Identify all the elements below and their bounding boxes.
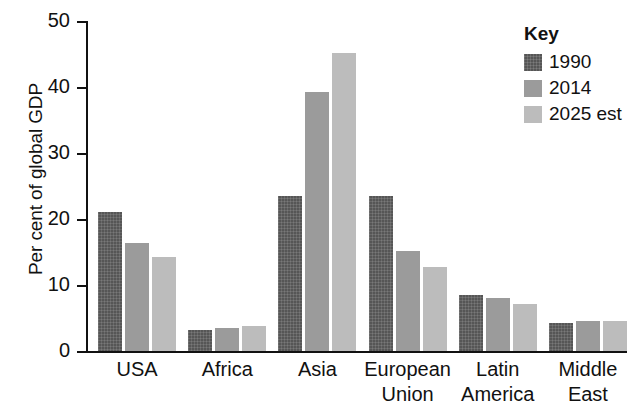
bar: [215, 328, 239, 351]
bar: [278, 196, 302, 351]
y-tick-label-50: 50: [48, 8, 70, 32]
bar: [332, 53, 356, 351]
legend-swatch-icon: [524, 106, 542, 123]
x-axis-label-line: Middle: [528, 357, 638, 382]
legend-title: Key: [524, 22, 634, 46]
bar: [369, 196, 393, 351]
bar: [125, 243, 149, 351]
bar: [549, 323, 573, 351]
legend-label: 1990: [549, 51, 591, 73]
bar-group: [98, 21, 176, 351]
bar: [576, 321, 600, 351]
bar: [98, 212, 122, 351]
bar-group: [369, 21, 447, 351]
x-axis-label-line: East: [528, 382, 638, 407]
legend-swatch-icon: [524, 80, 542, 97]
x-axis-category-labels: USAAfricaAsiaEuropeanUnionLatinAmericaMi…: [86, 357, 627, 417]
y-tick-0: 0: [77, 351, 87, 353]
y-tick-label-10: 10: [48, 272, 70, 296]
bar: [152, 257, 176, 351]
bar: [603, 321, 627, 351]
legend-item: 2025 est: [524, 101, 634, 127]
bar: [242, 326, 266, 351]
legend-item: 1990: [524, 49, 634, 75]
bar: [305, 92, 329, 351]
legend-label: 2014: [549, 77, 591, 99]
y-tick-label-0: 0: [59, 338, 70, 362]
legend-item: 2014: [524, 75, 634, 101]
bar: [188, 330, 212, 351]
bar: [486, 298, 510, 351]
bar-group: [188, 21, 266, 351]
bar-group: [278, 21, 356, 351]
bar: [513, 304, 537, 351]
x-axis-line: [86, 351, 627, 353]
bar: [459, 295, 483, 351]
y-tick-label-30: 30: [48, 140, 70, 164]
bar-chart: Per cent of global GDP 01020304050 USAAf…: [0, 0, 638, 419]
legend-entries: 199020142025 est: [524, 49, 634, 127]
x-axis-label: MiddleEast: [528, 357, 638, 407]
y-axis-title: Per cent of global GDP: [25, 49, 47, 309]
legend: Key 199020142025 est: [524, 22, 634, 127]
bar: [423, 267, 447, 351]
y-tick-label-20: 20: [48, 206, 70, 230]
legend-swatch-icon: [524, 54, 542, 71]
bar: [396, 251, 420, 351]
y-tick-label-40: 40: [48, 74, 70, 98]
legend-label: 2025 est: [549, 103, 622, 125]
